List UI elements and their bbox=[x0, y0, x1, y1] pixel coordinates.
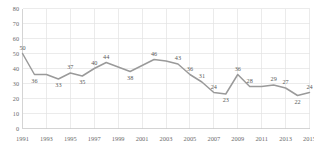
chart-canvas: 01020304050607080 1991199319951997199920… bbox=[0, 0, 314, 150]
x-tick-label: 2007 bbox=[207, 135, 221, 142]
data-point-label: 37 bbox=[67, 63, 73, 70]
data-point-label: 24 bbox=[306, 83, 312, 90]
x-tick-label: 2005 bbox=[184, 135, 197, 142]
data-point-label: 23 bbox=[223, 96, 229, 103]
data-point-label: 27 bbox=[282, 78, 288, 85]
data-point-label: 36 bbox=[235, 65, 241, 72]
data-point-label: 44 bbox=[103, 53, 109, 60]
x-tick-label: 1991 bbox=[16, 135, 29, 142]
x-tick-label: 1997 bbox=[88, 135, 102, 142]
data-point-label: 24 bbox=[211, 83, 217, 90]
y-tick-label: 40 bbox=[13, 65, 19, 72]
data-point-label: 22 bbox=[294, 98, 300, 105]
data-point-label: 46 bbox=[151, 50, 157, 57]
y-tick-label: 10 bbox=[13, 110, 19, 117]
data-point-label: 38 bbox=[127, 74, 133, 81]
x-tick-label: 1993 bbox=[40, 135, 53, 142]
x-axis-tick-labels: 1991199319951997199920012003200520072009… bbox=[16, 135, 314, 142]
y-tick-label: 50 bbox=[13, 50, 19, 57]
data-point-label: 36 bbox=[187, 65, 193, 72]
data-point-label: 31 bbox=[199, 72, 205, 79]
x-tick-label: 2001 bbox=[136, 135, 149, 142]
x-tick-label: 1999 bbox=[112, 135, 125, 142]
x-tick-label: 2013 bbox=[279, 135, 292, 142]
data-point-label: 28 bbox=[247, 77, 253, 84]
data-point-label: 33 bbox=[55, 81, 61, 88]
y-axis-tick-labels: 01020304050607080 bbox=[13, 5, 19, 132]
y-tick-label: 20 bbox=[13, 95, 19, 102]
x-tick-label: 1995 bbox=[64, 135, 77, 142]
y-tick-label: 30 bbox=[13, 80, 19, 87]
x-tick-label: 2015 bbox=[303, 135, 314, 142]
data-point-label: 43 bbox=[175, 54, 181, 61]
y-tick-label: 60 bbox=[13, 35, 19, 42]
data-point-label: 40 bbox=[91, 59, 97, 66]
data-point-label: 36 bbox=[31, 77, 37, 84]
line-chart: 01020304050607080 1991199319951997199920… bbox=[0, 0, 314, 150]
data-point-label: 50 bbox=[19, 44, 25, 51]
data-point-label: 35 bbox=[79, 78, 85, 85]
y-tick-label: 0 bbox=[16, 125, 19, 132]
x-tick-label: 2011 bbox=[255, 135, 268, 142]
x-tick-label: 2003 bbox=[160, 135, 173, 142]
y-tick-label: 80 bbox=[13, 5, 19, 12]
data-point-label: 29 bbox=[271, 75, 277, 82]
y-tick-label: 70 bbox=[13, 20, 19, 27]
x-tick-label: 2009 bbox=[231, 135, 244, 142]
